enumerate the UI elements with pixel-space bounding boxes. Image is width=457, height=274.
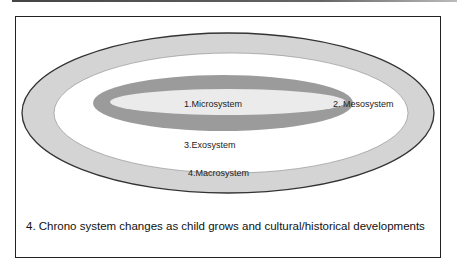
microsystem-label: 1.Microsystem <box>184 99 242 109</box>
exosystem-label: 3.Exosystem <box>184 140 236 150</box>
mesosystem-label: 2. Mesosystem <box>333 99 394 109</box>
macrosystem-label: 4.Macrosystem <box>188 168 249 178</box>
ecological-systems-diagram <box>0 0 457 274</box>
chronosystem-caption: 4. Chrono system changes as child grows … <box>26 220 425 232</box>
